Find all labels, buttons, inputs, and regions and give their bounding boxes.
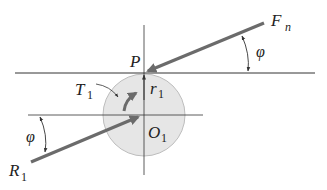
label-reaction-force-subscript: 1: [21, 170, 27, 184]
label-reaction-force: R: [8, 161, 20, 180]
label-gear-center: O: [148, 123, 160, 142]
label-normal-force: F: [270, 11, 282, 30]
label-torque-subscript: 1: [87, 88, 93, 102]
label-radius-subscript: 1: [158, 87, 164, 101]
label-torque: T: [75, 80, 86, 99]
normal-force-arrow: [148, 23, 264, 71]
gear-force-diagram: P F n φ T 1 r 1 O 1 φ R 1: [0, 0, 327, 190]
label-angle-upper: φ: [256, 43, 265, 61]
label-pitch-point: P: [129, 52, 140, 71]
label-normal-force-subscript: n: [285, 20, 291, 34]
label-angle-lower: φ: [26, 128, 35, 146]
angle-arc-lower: [40, 117, 46, 152]
label-radius: r: [150, 79, 157, 98]
label-gear-center-subscript: 1: [161, 131, 167, 145]
diagram-canvas: P F n φ T 1 r 1 O 1 φ R 1: [0, 0, 327, 190]
angle-arc-upper: [242, 36, 248, 71]
